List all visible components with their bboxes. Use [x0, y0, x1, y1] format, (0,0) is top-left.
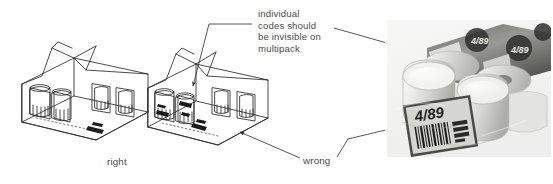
svg-text:4/89: 4/89: [510, 45, 529, 55]
note-to-middle-drawing-leader: [193, 24, 252, 86]
label-right: right: [107, 156, 127, 168]
annotation-note: individual codes should be invisible on …: [258, 8, 321, 54]
multipack-photograph: 4/89 4/89: [385, 18, 553, 159]
photo-content: 4/89 4/89: [385, 18, 553, 159]
label-wrong: wrong: [303, 155, 330, 167]
figure-multipack-coding: 4/89 4/89: [0, 0, 553, 184]
wrong-to-middle-drawing-leader: [240, 132, 300, 158]
svg-text:4/89: 4/89: [470, 36, 489, 46]
